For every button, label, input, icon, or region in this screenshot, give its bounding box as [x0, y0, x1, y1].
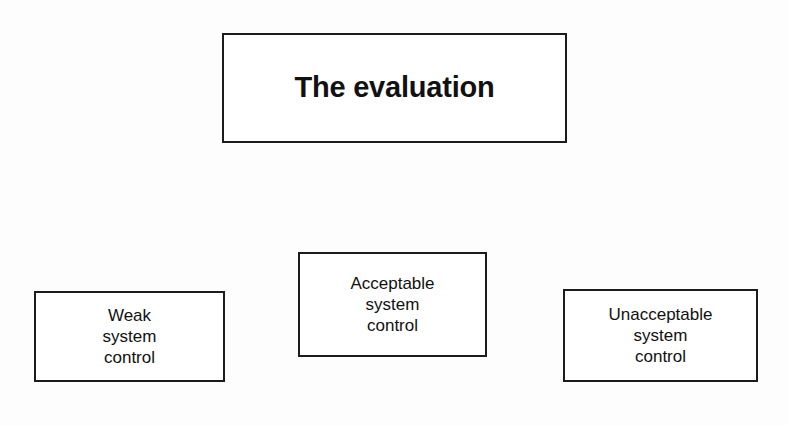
title-box: The evaluation: [222, 33, 567, 143]
outcome-label-acceptable: Acceptable system control: [344, 273, 440, 336]
slide-canvas: The evaluation Weak system control Accep…: [0, 0, 789, 425]
title-text: The evaluation: [288, 72, 500, 104]
outcome-box-unacceptable: Unacceptable system control: [563, 289, 758, 382]
outcome-box-weak: Weak system control: [34, 291, 225, 382]
outcome-label-weak: Weak system control: [97, 305, 163, 368]
outcome-label-unacceptable: Unacceptable system control: [603, 304, 719, 367]
outcome-box-acceptable: Acceptable system control: [298, 252, 487, 357]
